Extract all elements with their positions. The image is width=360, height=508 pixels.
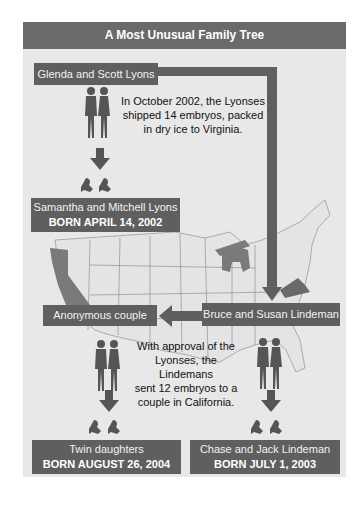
- node-chase-jack: Chase and Jack Lindeman BORN JULY 1, 200…: [190, 440, 340, 474]
- shipment-caption: In October 2002, the Lyonses shipped 14 …: [118, 94, 268, 136]
- node-label: Glenda and Scott Lyons: [37, 68, 154, 80]
- node-glenda-scott: Glenda and Scott Lyons: [34, 63, 158, 85]
- node-anonymous-couple: Anonymous couple: [43, 305, 157, 326]
- node-twin-daughters: Twin daughters BORN AUGUST 26, 2004: [32, 440, 181, 474]
- connector-line: [267, 67, 277, 289]
- node-bruce-susan: Bruce and Susan Lindeman: [202, 303, 340, 326]
- connector-line: [158, 67, 277, 76]
- page-title: A Most Unusual Family Tree: [23, 22, 346, 49]
- couple-icon: [85, 87, 110, 138]
- couple-icon: [95, 340, 120, 391]
- approval-caption: With approval of the Lyonses, the Lindem…: [128, 339, 244, 409]
- node-samantha-mitchell: Samantha and Mitchell Lyons BORN APRIL 1…: [31, 198, 180, 232]
- couple-icon: [257, 338, 282, 389]
